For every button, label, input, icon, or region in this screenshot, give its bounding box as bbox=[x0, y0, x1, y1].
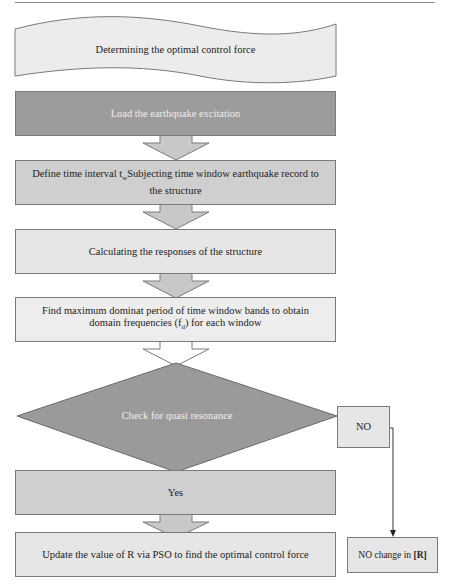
step-define: Define time interval twSubjecting time w… bbox=[15, 160, 336, 205]
step-find: Find maximum dominat period of time wind… bbox=[15, 297, 336, 342]
arrow-down-icon bbox=[143, 135, 209, 160]
update-box: Update the value of R via PSO to find th… bbox=[15, 532, 336, 577]
no-change-box: NO change in [R] bbox=[347, 537, 438, 573]
start-banner-label: Determining the optimal control force bbox=[15, 44, 336, 56]
arrow-down-icon bbox=[143, 341, 209, 366]
step-find-label: Find maximum dominat period of time wind… bbox=[26, 305, 325, 333]
update-label: Update the value of R via PSO to find th… bbox=[42, 549, 309, 561]
step-calculate: Calculating the responses of the structu… bbox=[15, 229, 336, 274]
no-box: NO bbox=[337, 406, 390, 448]
step-load-label: Load the earthquake excitation bbox=[111, 108, 241, 120]
yes-box: Yes bbox=[15, 470, 336, 515]
decision-label: Check for quasi resonance bbox=[17, 410, 337, 422]
arrow-down-icon bbox=[143, 204, 209, 229]
arrowhead-icon bbox=[390, 530, 396, 537]
step-load: Load the earthquake excitation bbox=[15, 91, 336, 136]
no-change-label: NO change in [R] bbox=[358, 549, 426, 561]
yes-label: Yes bbox=[168, 487, 183, 499]
step-calculate-label: Calculating the responses of the structu… bbox=[89, 246, 263, 258]
no-label: NO bbox=[356, 421, 371, 433]
step-define-label: Define time interval twSubjecting time w… bbox=[26, 168, 325, 196]
arrow-down-icon bbox=[143, 273, 209, 298]
